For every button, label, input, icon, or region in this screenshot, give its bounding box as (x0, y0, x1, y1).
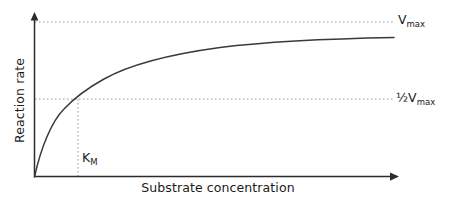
half-vmax-label-main: ½V (396, 90, 417, 105)
half-vmax-label: ½Vmax (396, 92, 435, 105)
vmax-label: Vmax (398, 14, 425, 27)
km-label: KM (82, 152, 98, 165)
km-label-subscript: M (90, 157, 97, 167)
x-axis-title: Substrate concentration (123, 180, 313, 195)
y-axis-title: Reaction rate (12, 36, 27, 166)
x-axis-arrowhead (390, 172, 399, 180)
half-vmax-label-subscript: max (417, 97, 436, 107)
michaelis-menten-chart: Reaction rate Substrate concentration Vm… (0, 0, 449, 202)
plot-canvas (0, 0, 449, 202)
km-label-main: K (82, 150, 90, 165)
vmax-label-subscript: max (407, 19, 426, 29)
y-axis-arrowhead (31, 12, 39, 21)
vmax-label-main: V (398, 12, 407, 27)
